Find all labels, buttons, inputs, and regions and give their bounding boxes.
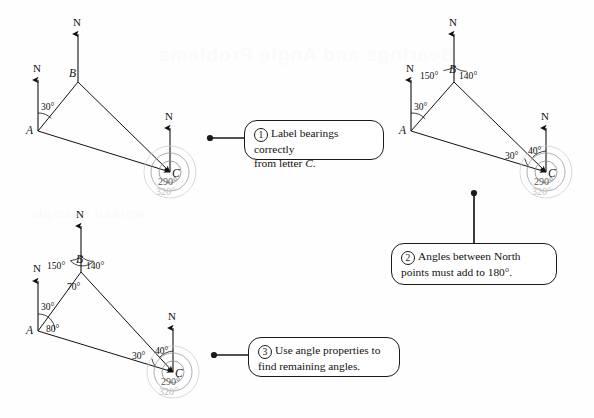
d3-angle-label-B-150: 150° — [47, 260, 65, 271]
d3-angle-label-A-80: 80° — [46, 323, 59, 334]
callout-3[interactable]: 3Use angle properties to find remaining … — [248, 337, 400, 377]
callout-3-number: 3 — [258, 345, 272, 359]
leader-dot-3 — [211, 352, 217, 358]
d3-vertex-label-A: A — [26, 324, 33, 336]
callout-1-number: 1 — [254, 128, 268, 142]
d3-segment-A-to-C — [38, 331, 173, 372]
d3-north-label-B: N — [76, 208, 84, 220]
d3-angle-label-C-30: 30° — [132, 350, 145, 361]
d3-angle-label-A-30: 30° — [41, 301, 54, 312]
d3-bearing-label-320: 320° — [159, 386, 178, 397]
worksheet-page: Bearings and Angle Problems worked examp… — [0, 0, 594, 418]
leader-dot-1 — [207, 135, 213, 141]
d1-north-label-C: N — [165, 110, 173, 122]
callout-3-line1: Use angle properties to — [275, 344, 380, 356]
d2-bearing-label-320: 320° — [532, 186, 551, 197]
callout-1-line2-italic: C — [305, 157, 313, 169]
d3-angle-label-B-140: 140° — [86, 260, 104, 271]
d2-north-label-A: N — [406, 62, 414, 74]
d1-vertex-label-A: A — [26, 124, 33, 136]
d2-angle-label-C-40: 40° — [528, 145, 541, 156]
segment-A-to-C — [38, 131, 170, 172]
d1-bearing-label-320: 320° — [156, 186, 175, 197]
d2-angle-label-B-150: 150° — [420, 70, 438, 81]
d1-north-label-B: N — [73, 16, 81, 28]
callout-2-number: 2 — [401, 251, 415, 265]
d2-vertex-label-A: A — [399, 124, 406, 136]
d2-north-label-B: N — [449, 16, 457, 28]
callout-1-line2-post: . — [313, 157, 316, 169]
d2-angle-label-B-140: 140° — [459, 70, 477, 81]
d3-angle-label-C-40: 40° — [155, 345, 168, 356]
leader-dot-2 — [471, 190, 477, 196]
d3-angle-label-B-70: 70° — [67, 281, 80, 292]
d3-north-label-A: N — [33, 262, 41, 274]
d3-segment-B-to-C — [81, 272, 173, 372]
callout-2[interactable]: 2Angles between North points must add to… — [391, 243, 557, 285]
d3-vertex-label-B: B — [76, 253, 83, 265]
callout-2-line1: Angles between North — [418, 250, 521, 262]
d1-north-label-A: N — [33, 62, 41, 74]
d1-angle-label-A-30: 30° — [41, 101, 54, 112]
d2-vertex-label-B: B — [449, 63, 456, 75]
d1-vertex-label-B: B — [69, 67, 76, 79]
d3-north-label-C: N — [168, 310, 176, 322]
d2-angle-label-A-30: 30° — [414, 101, 427, 112]
callout-1-line2-pre: from letter — [254, 157, 305, 169]
callout-1[interactable]: 1Label bearings correctly from letter C. — [244, 120, 384, 160]
d2-angle-label-C-30: 30° — [505, 150, 518, 161]
callout-3-line2-pre: find remaining angles. — [258, 360, 360, 372]
callout-2-line2-pre: points must add to 180°. — [401, 266, 512, 278]
d2-north-label-C: N — [541, 110, 549, 122]
